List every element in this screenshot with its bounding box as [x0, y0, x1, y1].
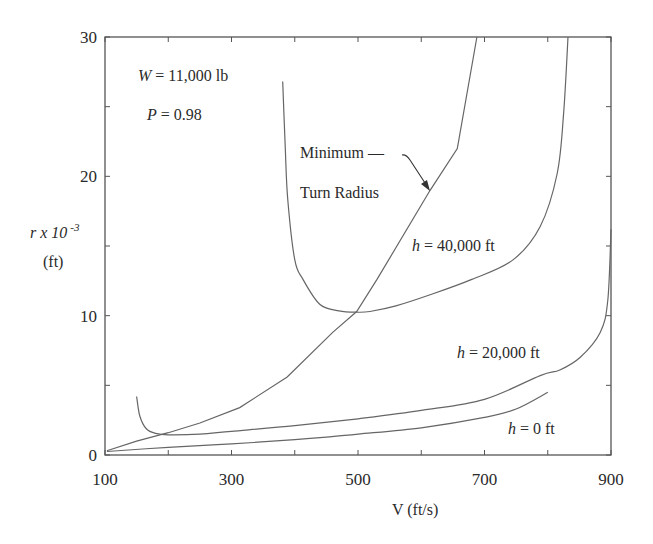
- series-label-h40000-var: h: [412, 237, 420, 254]
- series-label-h40000-value: = 40,000 ft: [420, 237, 495, 254]
- series-label-h0: h = 0 ft: [508, 420, 555, 437]
- y-axis-label-var: r x: [30, 224, 51, 241]
- y-tick-label: 0: [89, 446, 98, 465]
- curves: [107, 37, 611, 452]
- y-tick-label: 30: [80, 28, 97, 47]
- weight-annotation: W = 11,000 lb: [138, 67, 228, 84]
- y-axis-unit: (ft): [43, 253, 63, 271]
- x-tick-label: 100: [92, 470, 118, 489]
- series-label-h20000-var: h: [457, 344, 465, 361]
- weight-value: = 11,000 lb: [151, 67, 228, 84]
- min-turn-radius-arrow: [402, 155, 430, 191]
- x-tick-label: 300: [219, 470, 245, 489]
- series-label-h0-var: h: [508, 420, 516, 437]
- series-label-h20000: h = 20,000 ft: [457, 344, 540, 361]
- arrow-head-icon: [421, 180, 430, 191]
- axis-ticks: [105, 37, 611, 455]
- x-tick-label: 500: [345, 470, 371, 489]
- power-annotation: P = 0.98: [146, 106, 202, 123]
- series-label-h0-value: = 0 ft: [516, 420, 555, 437]
- x-tick-label: 700: [472, 470, 498, 489]
- series-label-h20000-value: = 20,000 ft: [465, 344, 540, 361]
- curve-h40000: [283, 37, 568, 312]
- min-turn-radius-label-line2: Turn Radius: [300, 184, 379, 201]
- x-axis-label: V (ft/s): [392, 501, 438, 519]
- power-value: = 0.98: [157, 106, 202, 123]
- curve-h20000: [137, 229, 611, 435]
- power-var: P: [146, 106, 157, 123]
- x-tick-label: 900: [598, 470, 624, 489]
- y-tick-label: 10: [80, 307, 97, 326]
- y-axis-label-exponent: -3: [70, 221, 80, 233]
- y-axis-label-base: 10: [51, 224, 67, 241]
- min-turn-radius-label-line1: Minimum —: [300, 144, 385, 161]
- plot-frame: [105, 37, 611, 455]
- y-axis-label: r x 10-3: [30, 221, 80, 241]
- series-label-h40000: h = 40,000 ft: [412, 237, 495, 254]
- chart: 1003005007009000102030 r x 10-3 (ft) V (…: [0, 0, 653, 544]
- y-tick-label: 20: [80, 167, 97, 186]
